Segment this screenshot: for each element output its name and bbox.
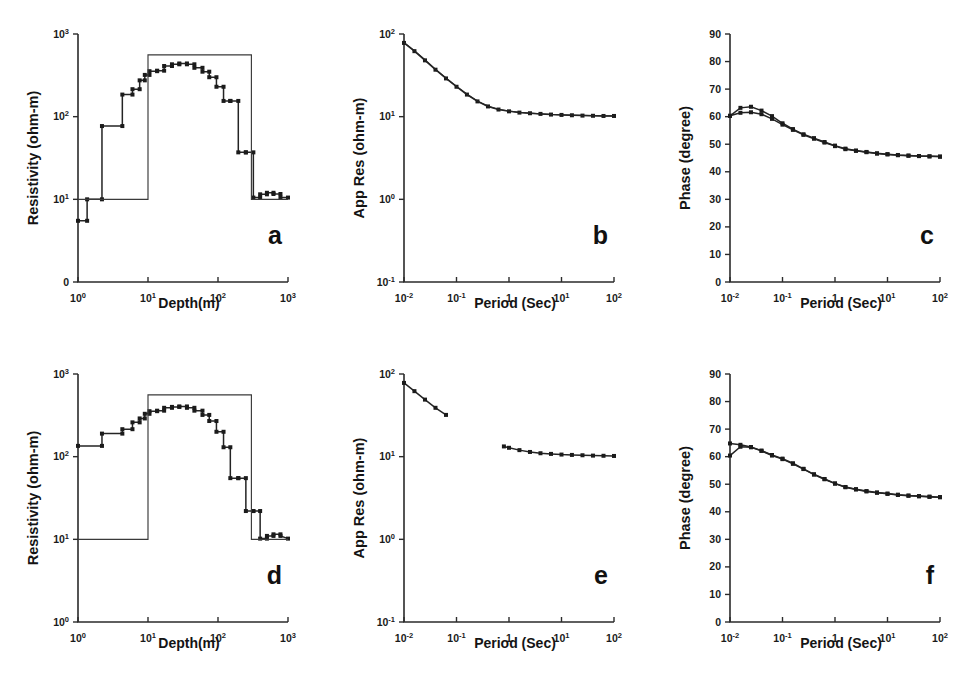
x-ticklabel-f-0: 10-2 <box>721 631 739 644</box>
marker-a-0-9 <box>138 87 142 91</box>
x-ticklabel-c-0: 10-2 <box>721 291 739 304</box>
axis-frame-e <box>404 374 614 622</box>
marker-a-0-19 <box>170 64 174 68</box>
marker-d-0-34 <box>228 476 232 480</box>
y-ticklabel-f-6: 60 <box>709 450 721 462</box>
marker-d-0-7 <box>138 420 142 424</box>
panel-letter-d: d <box>267 561 282 589</box>
marker-c-1-9 <box>823 141 827 145</box>
marker-e-1-6 <box>560 453 564 457</box>
y-ticklabel-c-4: 40 <box>709 165 721 177</box>
marker-a-0-10 <box>138 78 142 82</box>
axis-frame-d <box>78 374 288 622</box>
y-ticklabel-d-2: 102 <box>53 449 69 462</box>
marker-a-0-4 <box>100 124 104 128</box>
series-d-1 <box>78 395 288 540</box>
marker-a-0-47 <box>271 191 275 195</box>
marker-d-0-37 <box>244 476 248 480</box>
marker-f-1-10 <box>833 482 837 486</box>
panel-a: 0101102103100101102103Depth(m)Resistivit… <box>0 0 326 340</box>
marker-a-0-35 <box>228 99 232 103</box>
panel-letter-f: f <box>926 561 935 589</box>
marker-f-1-12 <box>854 487 858 491</box>
marker-f-1-19 <box>928 495 932 499</box>
marker-c-1-17 <box>906 154 910 158</box>
y-ticklabel-c-0: 0 <box>715 276 721 288</box>
x-ticklabel-f-4: 102 <box>932 631 948 644</box>
x-ticklabel-a-1: 101 <box>140 291 156 304</box>
y-ticklabel-b-3: 102 <box>379 27 395 40</box>
panel-letter-c: c <box>920 221 934 249</box>
y-ticklabel-a-3: 103 <box>53 27 69 40</box>
marker-a-0-12 <box>143 73 147 77</box>
y-ticklabel-e-0: 10-1 <box>377 615 395 628</box>
marker-e-1-9 <box>591 454 595 458</box>
marker-a-0-11 <box>143 78 147 82</box>
marker-e-1-10 <box>602 454 606 458</box>
marker-d-0-41 <box>258 509 262 513</box>
figure-root: 0101102103100101102103Depth(m)Resistivit… <box>0 0 978 680</box>
series-a-1 <box>78 55 288 200</box>
marker-d-0-25 <box>200 409 204 413</box>
marker-f-1-17 <box>906 494 910 498</box>
marker-d-0-1 <box>100 444 104 448</box>
y-ticklabel-c-3: 30 <box>709 193 721 205</box>
marker-c-1-14 <box>875 152 879 156</box>
marker-d-0-9 <box>143 416 147 420</box>
y-ticklabel-c-6: 60 <box>709 110 721 122</box>
marker-c-1-10 <box>833 144 837 148</box>
y-ticklabel-c-5: 50 <box>709 138 721 150</box>
marker-d-0-23 <box>192 406 196 410</box>
marker-a-0-34 <box>222 99 226 103</box>
marker-e-1-11 <box>612 454 616 458</box>
y-ticklabel-a-1: 101 <box>53 192 69 205</box>
marker-c-1-5 <box>781 123 785 127</box>
marker-a-0-29 <box>207 70 211 74</box>
y-ticklabel-a-2: 102 <box>53 109 69 122</box>
series-a-0 <box>78 63 288 220</box>
x-ticklabel-b-4: 102 <box>606 291 622 304</box>
y-ticklabel-c-9: 90 <box>709 28 721 40</box>
marker-e-1-2 <box>517 448 521 452</box>
marker-c-1-8 <box>812 137 816 141</box>
marker-f-1-11 <box>843 485 847 489</box>
marker-c-1-16 <box>896 153 900 157</box>
marker-a-0-45 <box>265 192 269 196</box>
marker-d-0-26 <box>200 413 204 417</box>
marker-c-1-1 <box>738 111 742 115</box>
x-ticklabel-f-1: 10-1 <box>773 631 791 644</box>
y-ticklabel-f-5: 50 <box>709 478 721 490</box>
marker-a-0-38 <box>236 150 240 154</box>
marker-c-0-3 <box>759 109 763 113</box>
marker-f-1-2 <box>749 445 753 449</box>
marker-e-1-1 <box>507 446 511 450</box>
marker-f-1-9 <box>823 477 827 481</box>
marker-f-1-14 <box>875 491 879 495</box>
marker-e-0-4 <box>444 413 448 417</box>
marker-a-0-30 <box>207 75 211 79</box>
marker-a-0-15 <box>155 69 159 73</box>
marker-a-0-27 <box>200 66 204 70</box>
marker-e-0-3 <box>433 406 437 410</box>
x-axis-title-d: Depth(m) <box>158 635 219 651</box>
marker-a-0-1 <box>85 219 89 223</box>
marker-c-1-12 <box>854 149 858 153</box>
x-ticklabel-d-1: 101 <box>140 631 156 644</box>
marker-d-0-4 <box>120 427 124 431</box>
marker-a-0-21 <box>177 62 181 66</box>
x-ticklabel-d-3: 103 <box>280 631 296 644</box>
y-ticklabel-d-0: 100 <box>53 615 69 628</box>
x-axis-title-f: Period (Sec) <box>800 635 882 651</box>
marker-f-1-18 <box>917 494 921 498</box>
marker-d-0-45 <box>271 534 275 538</box>
marker-e-0-1 <box>412 389 416 393</box>
x-axis-title-e: Period (Sec) <box>474 635 556 651</box>
marker-d-0-27 <box>207 413 211 417</box>
x-ticklabel-d-0: 100 <box>70 631 86 644</box>
y-axis-title-a: Resistivity (ohm-m) <box>25 91 41 226</box>
marker-f-1-5 <box>781 457 785 461</box>
x-ticklabel-b-1: 10-1 <box>447 291 465 304</box>
marker-c-1-4 <box>770 117 774 121</box>
x-axis-title-c: Period (Sec) <box>800 295 882 311</box>
series-b-1 <box>404 42 614 115</box>
